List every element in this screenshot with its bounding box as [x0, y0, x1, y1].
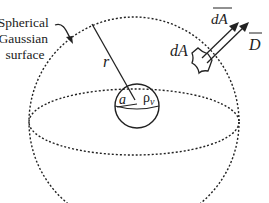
gauss-law-diagram: Spherical Gaussian surface r a ρv dA dA …: [0, 0, 269, 203]
callout-arrow: [55, 24, 70, 38]
radius-label: r: [103, 53, 110, 70]
flux-density-arrow: [207, 26, 245, 63]
flux-density-label: D: [248, 36, 261, 53]
area-element-label: dA: [170, 42, 188, 59]
callout-arrowhead-icon: [66, 36, 73, 44]
radius-line: [92, 24, 135, 100]
charge-density-label: ρv: [143, 90, 155, 107]
vector-area-label: dA: [211, 11, 229, 27]
vector-area-arrow: [202, 26, 235, 58]
callout-label: Spherical Gaussian surface: [0, 15, 52, 62]
gaussian-sphere: [29, 17, 239, 203]
inner-radius-label: a: [119, 92, 126, 107]
